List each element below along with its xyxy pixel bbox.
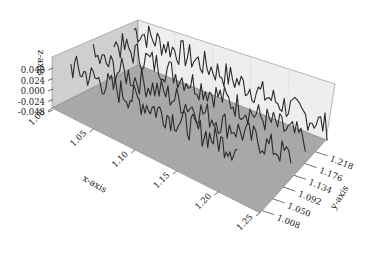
3d-line-chart: 0.0480.0240.000-0.024-0.048 1.001.051.10… bbox=[0, 0, 377, 262]
x-tick-label: 1.10 bbox=[110, 149, 130, 169]
x-tick-label: 1.25 bbox=[234, 212, 254, 232]
x-tick-label: 1.05 bbox=[68, 128, 88, 148]
z-tick-label: 0.024 bbox=[21, 76, 45, 86]
y-tick bbox=[262, 211, 274, 215]
y-tick-label: 1.008 bbox=[275, 212, 301, 230]
z-tick-label: -0.024 bbox=[18, 97, 45, 107]
z-axis: 0.0480.0240.000-0.024-0.048 bbox=[18, 65, 53, 117]
x-tick bbox=[131, 150, 135, 153]
y-tick bbox=[315, 152, 327, 156]
y-tick bbox=[273, 199, 285, 203]
z-axis-label: z-axis bbox=[36, 50, 46, 76]
y-tick bbox=[294, 175, 306, 179]
y-tick bbox=[283, 187, 295, 191]
x-tick bbox=[256, 213, 260, 216]
z-tick-label: 0.000 bbox=[21, 86, 45, 96]
x-tick-label: 1.15 bbox=[151, 170, 171, 190]
x-tick-label: 1.20 bbox=[193, 191, 213, 211]
x-tick bbox=[90, 129, 94, 132]
x-tick bbox=[214, 192, 218, 195]
x-tick bbox=[173, 171, 177, 174]
y-tick bbox=[305, 164, 317, 168]
x-axis-label: x-axis bbox=[81, 173, 109, 195]
